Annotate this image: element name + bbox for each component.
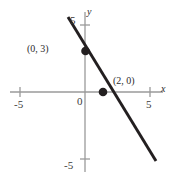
y-axis-label: y	[87, 7, 91, 17]
point-label-x-intercept: (2, 0)	[113, 76, 135, 86]
x-tick-label-neg5: -5	[14, 99, 23, 110]
line-graph-figure: x y -5 5 5 -5 0 (0, 3) (2, 0)	[0, 0, 173, 181]
x-axis-label: x	[161, 84, 165, 94]
y-tick-label-neg5: -5	[64, 160, 73, 171]
origin-label: 0	[77, 96, 83, 107]
coordinate-plane	[0, 0, 173, 181]
point-x-intercept	[99, 88, 108, 97]
point-y-intercept	[81, 47, 90, 56]
x-tick-label-5: 5	[146, 99, 152, 110]
plotted-line	[68, 17, 156, 161]
point-label-y-intercept: (0, 3)	[27, 44, 49, 54]
y-tick-label-5: 5	[70, 15, 76, 26]
